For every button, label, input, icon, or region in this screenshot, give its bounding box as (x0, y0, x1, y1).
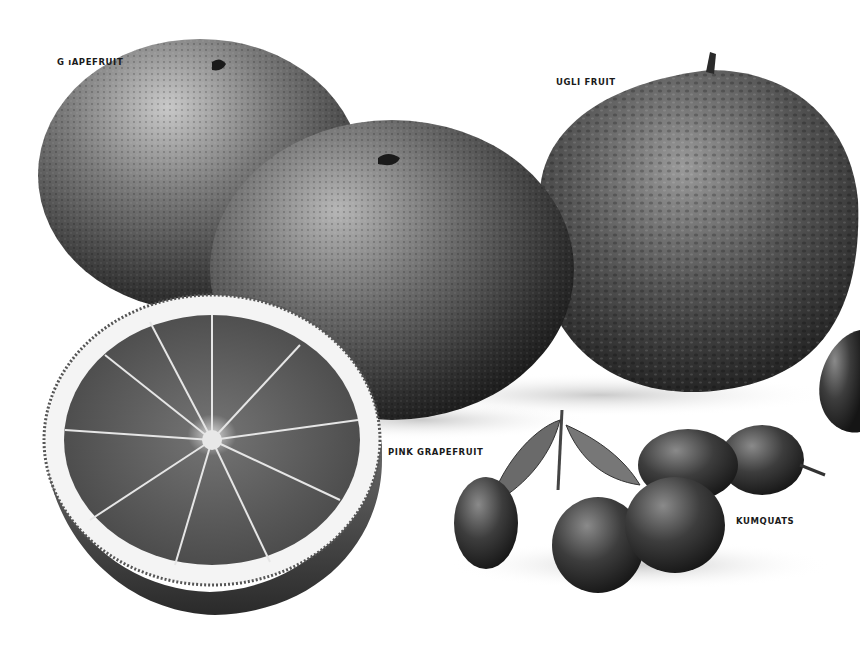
label-pink-grapefruit: PINK GRAPEFRUIT (388, 447, 483, 457)
label-kumquats: KUMQUATS (736, 516, 794, 526)
label-ugli-fruit: UGLI FRUIT (556, 77, 616, 87)
citrus-illustration: G ıAPEFRUIT UGLI FRUIT PINK GRAPEFRUIT K… (0, 0, 860, 652)
kumquat-leaf-icon (566, 425, 640, 485)
label-grapefruit: G ıAPEFRUIT (57, 57, 123, 67)
partial-fruit-right-edge (819, 330, 860, 433)
fruit-core (202, 430, 222, 450)
ugli-fruit-whole (540, 52, 858, 392)
pink-grapefruit-half (44, 295, 382, 615)
illustration-canvas (0, 0, 860, 652)
